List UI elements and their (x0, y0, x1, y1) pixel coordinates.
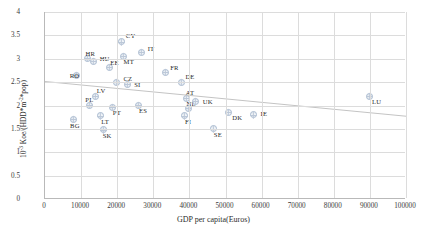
x-axis-tick-label: 100000 (375, 202, 427, 210)
data-point-marker (250, 111, 257, 118)
y-gridline (45, 152, 405, 153)
y-gridline (45, 106, 405, 107)
y-gridline (45, 82, 405, 83)
data-point-label: FR (170, 64, 178, 71)
plot-area: BGROHRPLLVHULTSKEEPTCZCYMTSIESITFRDENLFI… (44, 12, 405, 199)
y-gridline (45, 59, 405, 60)
data-point-marker (162, 69, 169, 76)
y-axis-tick-label: 2.5 (0, 78, 20, 86)
y-axis-tick-label: 0.5 (0, 172, 20, 180)
data-point-label: DK (232, 114, 242, 121)
y-axis-tick-label: 4 (0, 8, 20, 16)
data-point-label: LT (101, 118, 109, 125)
y-gridline (45, 35, 405, 36)
y-axis-tick-label: 3 (0, 55, 20, 63)
data-point-label: ES (139, 107, 147, 114)
scatter-chart: BGROHRPLLVHULTSKEEPTCZCYMTSIESITFRDENLFI… (0, 0, 427, 238)
data-point-label: HR (86, 50, 96, 57)
y-axis-tick-label: 2 (0, 102, 20, 110)
data-point-label: BG (70, 122, 80, 129)
data-point-label: LV (97, 87, 106, 94)
y-axis-tick-label: 1 (0, 148, 20, 156)
data-point-label: SE (214, 131, 222, 138)
data-point-label: LU (372, 98, 381, 105)
y-axis-tick-label: 1.5 (0, 125, 20, 133)
data-point-marker (118, 38, 125, 45)
y-axis-tick-label: 0 (0, 195, 20, 203)
x-gridline (406, 12, 407, 198)
data-point-marker (138, 49, 145, 56)
x-axis-label: GDP per capita(Euros) (0, 215, 427, 224)
data-point-label: SK (103, 132, 112, 139)
data-point-label: UK (203, 98, 213, 105)
y-gridline (45, 129, 405, 130)
data-point-marker (192, 98, 199, 105)
data-point-label: RO (70, 72, 80, 79)
y-axis-tick-label: 3.5 (0, 31, 20, 39)
y-gridline (45, 176, 405, 177)
y-gridline (45, 12, 405, 13)
